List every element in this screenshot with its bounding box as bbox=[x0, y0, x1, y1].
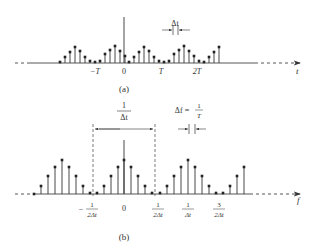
stem bbox=[68, 166, 71, 194]
stem bbox=[79, 50, 82, 63]
period-num: 1 bbox=[122, 101, 126, 110]
stem bbox=[133, 56, 136, 63]
stem bbox=[159, 192, 162, 195]
delta-f-den: T bbox=[197, 112, 202, 120]
panel-b: f 1 Δt Δf = 1 T −12Δt012Δt1Δt32Δt (b) bbox=[15, 101, 301, 242]
svg-text:1: 1 bbox=[90, 201, 94, 209]
stem bbox=[148, 50, 151, 63]
stem bbox=[99, 60, 102, 63]
tick-label: 12Δt bbox=[152, 201, 164, 219]
stem bbox=[119, 50, 122, 63]
tick-labels: −T0T2T bbox=[90, 67, 202, 76]
stem bbox=[75, 175, 78, 194]
stem bbox=[208, 56, 211, 63]
spectrum-stems bbox=[33, 159, 246, 196]
tick-labels: −12Δt012Δt1Δt32Δt bbox=[79, 201, 225, 219]
tick-label: 2T bbox=[193, 67, 202, 76]
stem bbox=[215, 192, 218, 195]
stem bbox=[198, 60, 201, 63]
panel-a: t −T0T2T Δt (a) bbox=[15, 17, 300, 94]
svg-text:2Δt: 2Δt bbox=[214, 211, 225, 219]
stem bbox=[173, 175, 176, 194]
stem bbox=[128, 61, 131, 64]
stem bbox=[59, 61, 62, 64]
stem bbox=[94, 61, 97, 64]
sample-stems bbox=[59, 45, 221, 64]
stem bbox=[168, 60, 171, 63]
stem bbox=[180, 166, 183, 194]
stem bbox=[213, 51, 216, 63]
caption-a: (a) bbox=[119, 84, 129, 94]
stem bbox=[137, 175, 140, 194]
caption-b: (b) bbox=[119, 232, 130, 242]
stem bbox=[110, 175, 113, 194]
stem bbox=[47, 175, 50, 194]
svg-text:1: 1 bbox=[186, 201, 190, 209]
period-den: Δt bbox=[120, 113, 128, 122]
stem bbox=[130, 166, 133, 194]
svg-text:1: 1 bbox=[156, 201, 160, 209]
stem bbox=[163, 61, 166, 64]
stem bbox=[203, 61, 206, 64]
stem bbox=[201, 175, 204, 194]
stem bbox=[188, 50, 191, 63]
delta-f-annotation: Δf = 1 T bbox=[175, 102, 206, 134]
stem bbox=[89, 60, 92, 63]
stem bbox=[218, 46, 221, 63]
svg-text:Δt: Δt bbox=[184, 211, 192, 219]
stem bbox=[123, 159, 126, 194]
stem bbox=[166, 185, 169, 194]
stem bbox=[144, 185, 147, 194]
sampling-diagram: t −T0T2T Δt (a) f 1 Δt Δf = bbox=[0, 0, 316, 247]
svg-text:3: 3 bbox=[217, 201, 221, 209]
tick-label: 32Δt bbox=[213, 201, 225, 219]
stem bbox=[194, 166, 197, 194]
axis-label-f: f bbox=[297, 195, 301, 205]
stem bbox=[208, 185, 211, 194]
stem bbox=[104, 53, 107, 63]
stem bbox=[138, 51, 141, 63]
stem bbox=[64, 56, 67, 63]
stem bbox=[74, 46, 77, 63]
stem bbox=[89, 192, 92, 195]
tick-label: −12Δt bbox=[79, 201, 98, 219]
svg-text:0: 0 bbox=[122, 204, 126, 213]
stem bbox=[54, 166, 57, 194]
stem bbox=[114, 45, 117, 63]
stem bbox=[96, 192, 99, 195]
stem bbox=[178, 49, 181, 63]
tick-label: 0 bbox=[122, 67, 126, 76]
period-annotation: 1 Δt bbox=[95, 101, 153, 129]
stem bbox=[193, 55, 196, 63]
delta-t-annotation: Δt bbox=[162, 19, 190, 35]
stem bbox=[173, 53, 176, 63]
stem bbox=[82, 185, 85, 194]
stem bbox=[117, 166, 120, 194]
stem bbox=[153, 56, 156, 63]
stem bbox=[69, 51, 72, 63]
svg-text:2Δt: 2Δt bbox=[87, 211, 98, 219]
stem bbox=[151, 192, 154, 195]
stem bbox=[103, 185, 106, 194]
stem bbox=[243, 166, 246, 194]
stem bbox=[236, 175, 239, 194]
tick-label: 1Δt bbox=[182, 201, 194, 219]
tick-label: −T bbox=[90, 67, 100, 76]
svg-text:2Δt: 2Δt bbox=[153, 211, 164, 219]
delta-f-lhs: Δf = bbox=[175, 106, 190, 115]
tick-label: T bbox=[159, 67, 164, 76]
delta-f-num: 1 bbox=[197, 102, 201, 110]
stem bbox=[187, 159, 190, 194]
svg-text:−: − bbox=[79, 205, 84, 214]
stem bbox=[61, 159, 64, 194]
stem bbox=[222, 192, 225, 195]
tick-label: 0 bbox=[122, 204, 126, 213]
stem bbox=[183, 45, 186, 63]
stem bbox=[158, 60, 161, 63]
stem bbox=[109, 49, 112, 63]
stem bbox=[143, 46, 146, 63]
axis-label-t: t bbox=[296, 66, 299, 76]
stem bbox=[40, 185, 43, 194]
stem bbox=[33, 193, 36, 196]
stem bbox=[229, 185, 232, 194]
